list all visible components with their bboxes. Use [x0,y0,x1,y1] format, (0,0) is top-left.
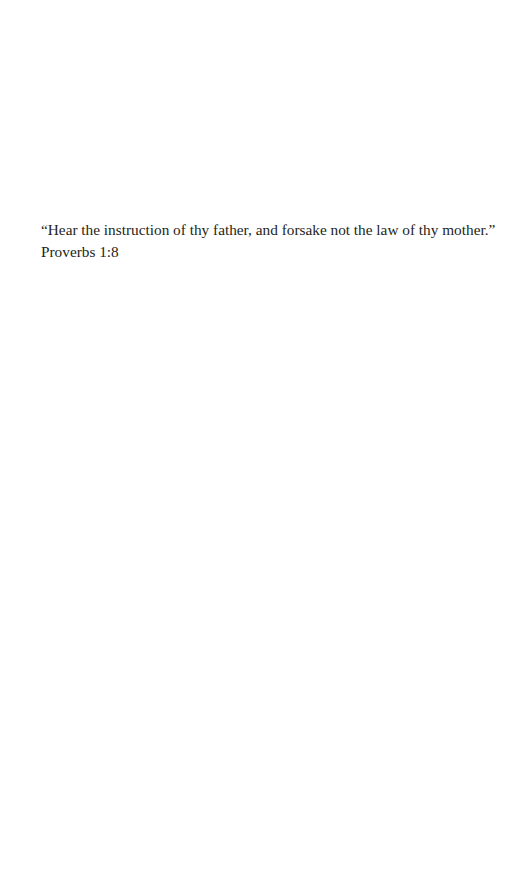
document-page: “Hear the instruction of thy father, and… [0,0,516,869]
epigraph-quote: “Hear the instruction of thy father, and… [41,219,495,241]
epigraph-citation: Proverbs 1:8 [41,241,495,263]
epigraph: “Hear the instruction of thy father, and… [41,219,495,263]
